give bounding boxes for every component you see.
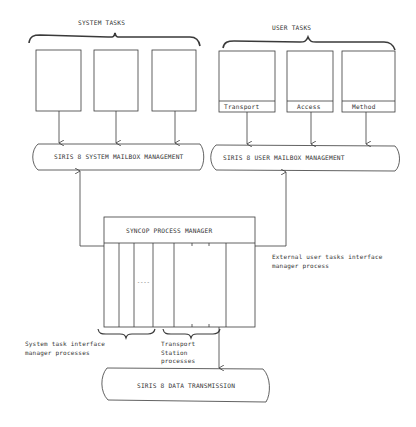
user-task-transport-label: Transport: [224, 103, 259, 110]
system-mailbox-label: SIRIS 8 SYSTEM MAILBOX MANAGEMENT: [54, 153, 184, 160]
system-task-box-2: [94, 50, 138, 111]
user-tasks-brace: [223, 37, 395, 50]
system-tasks-label: SYSTEM TASKS: [78, 19, 125, 26]
syncop-process-manager-label: SYNCOP PROCESS MANAGER: [126, 227, 212, 234]
system-task-box-1: [36, 50, 81, 111]
user-task-access-label: Access: [297, 103, 321, 110]
process-ellipsis: ----: [137, 279, 150, 285]
transport-station-brace: [163, 329, 220, 338]
user-task-method-label: Method: [352, 103, 376, 110]
system-interface-brace: [98, 329, 155, 338]
user-mailbox-label: SIRIS 8 USER MAILBOX MANAGEMENT: [223, 154, 345, 161]
user-tasks-label: USER TASKS: [272, 24, 311, 31]
system-task-interface-annotation: System task interface manager processes: [25, 340, 105, 357]
system-tasks-brace: [29, 33, 200, 46]
system-task-box-3: [152, 50, 196, 111]
transport-station-annotation: Transport Station processes: [161, 340, 195, 366]
data-transmission-label: SIRIS 8 DATA TRANSMISSION: [137, 382, 235, 389]
diagram-canvas: [0, 0, 416, 427]
external-user-annotation: External user tasks interface manager pr…: [272, 253, 383, 270]
